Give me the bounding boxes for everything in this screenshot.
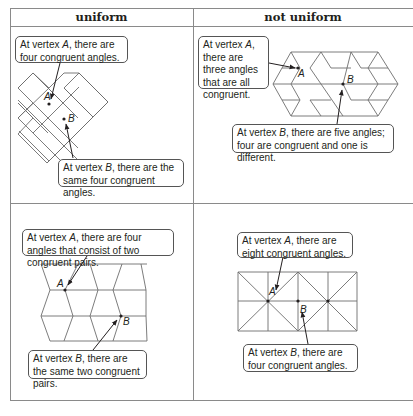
header-bottom-border [10, 26, 413, 27]
vertex-label-a: A [298, 68, 305, 79]
callout-uniform-chevron-b: At vertex B, there are the same two cong… [28, 350, 147, 379]
callout-not-uniform-triangle-a: At vertex A, there are eight congruent a… [237, 232, 353, 258]
header-not-uniform: not uniform [193, 8, 413, 26]
callout-uniform-square-b: At vertex B, there are the same four con… [58, 159, 184, 187]
square-grid [18, 73, 108, 163]
callout-not-uniform-triangle-b: At vertex B, there are four congruent an… [243, 344, 358, 372]
row-divider [10, 203, 413, 204]
triangle-tessellation [238, 272, 357, 331]
column-divider [193, 8, 194, 400]
callout-uniform-square-a: At vertex A, there are four congruent an… [15, 36, 128, 63]
vertex-label-a: A [44, 91, 51, 102]
table-left-border [10, 8, 11, 400]
vertex-label-a: A [269, 286, 276, 297]
vertex-label-b: B [123, 316, 130, 327]
vertex-label-b: B [347, 74, 354, 85]
chevron-tessellation [41, 264, 147, 341]
callout-uniform-chevron-a: At vertex A, there are four angles that … [22, 229, 174, 256]
rhombus-tessellation [273, 52, 398, 116]
vertex-label-a: A [57, 278, 64, 289]
callout-not-uniform-rhombus-b: At vertex B, there are five angles; four… [232, 124, 394, 153]
vertex-label-b: B [68, 113, 75, 124]
vertex-label-b: B [300, 304, 307, 315]
header-uniform: uniform [10, 8, 193, 26]
callout-not-uniform-rhombus-a: At vertex A, there are three angles that… [198, 36, 269, 89]
table-bottom-border [10, 400, 413, 401]
square-tessellation [18, 73, 108, 161]
